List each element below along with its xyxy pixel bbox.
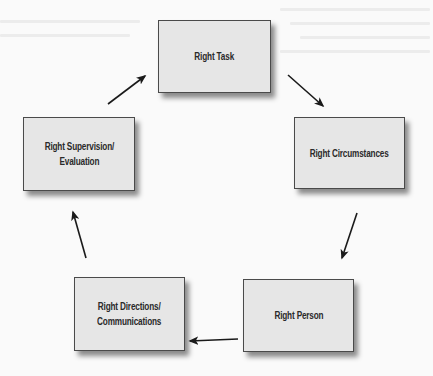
arrow-directions-to-supervision [73,212,86,258]
arrow-person-to-directions [190,339,238,341]
cycle-arrows [0,0,433,376]
arrow-circumstances-to-person [342,213,357,258]
arrow-task-to-circumstances [288,75,323,106]
arrow-supervision-to-task [108,76,145,104]
